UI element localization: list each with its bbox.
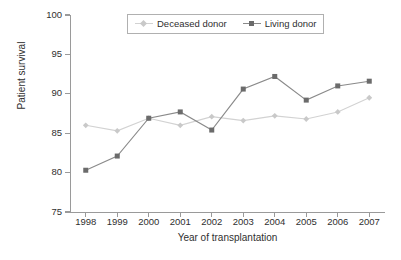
x-axis-title: Year of transplantation [70, 232, 385, 243]
data-point [304, 98, 309, 103]
data-point [366, 95, 372, 101]
legend-item-deceased-donor: Deceased donor [135, 18, 227, 29]
data-point [83, 168, 88, 173]
y-tick-label: 95 [36, 49, 62, 59]
data-point [115, 154, 120, 159]
data-point [367, 79, 372, 84]
legend-marker-square-icon [243, 20, 261, 28]
data-point [209, 128, 214, 133]
y-tick-label: 85 [36, 128, 62, 138]
y-axis-title: Patient survival [16, 16, 27, 136]
y-tick-label: 80 [36, 167, 62, 177]
data-point [303, 116, 309, 122]
x-tick-label: 2007 [349, 216, 389, 227]
data-point [209, 114, 215, 120]
y-tick-label: 90 [36, 88, 62, 98]
data-point [335, 109, 341, 115]
plot-area [70, 15, 385, 212]
data-point [146, 116, 151, 121]
series-canvas [70, 15, 385, 212]
data-point [177, 122, 183, 128]
data-point [335, 83, 340, 88]
data-point [241, 87, 246, 92]
data-point [240, 118, 246, 124]
series-line-living-donor [86, 76, 370, 170]
data-point [272, 74, 277, 79]
y-tick-label: 100 [36, 10, 62, 20]
legend-marker-diamond-icon [135, 20, 153, 28]
y-tick-label: 75 [36, 207, 62, 217]
data-point [272, 113, 278, 119]
series-line-deceased-donor [86, 98, 370, 131]
chart-legend: Deceased donor Living donor [127, 14, 324, 34]
chart-figure: 7580859095100 19981999200020012002200320… [0, 0, 401, 260]
legend-label-deceased-donor: Deceased donor [157, 18, 227, 29]
legend-label-living-donor: Living donor [265, 18, 317, 29]
legend-item-living-donor: Living donor [243, 18, 317, 29]
data-point [83, 122, 89, 128]
data-point [178, 109, 183, 114]
data-point [114, 128, 120, 134]
